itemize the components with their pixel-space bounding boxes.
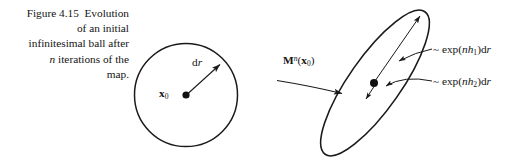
x0-subscript: 0 xyxy=(165,92,169,101)
leader-line-h2 xyxy=(386,79,432,86)
h1-close: )d xyxy=(477,43,486,55)
label-contracting-axis: ~ exp(nh2)dr xyxy=(433,76,491,88)
label-dr: dr xyxy=(192,57,202,68)
map-m: M xyxy=(283,54,294,66)
contracting-axis-arrow xyxy=(366,85,375,99)
h1-r: r xyxy=(487,43,491,55)
dr-r: r xyxy=(198,56,202,68)
map-arrow xyxy=(277,81,342,94)
h2-tilde: ~ xyxy=(433,75,442,87)
figure-4-15: Figure 4.15 Evolution of an initial infi… xyxy=(0,0,520,167)
h1-tilde: ~ xyxy=(433,43,442,55)
label-map-operator: Mn(x0) xyxy=(283,55,314,68)
radius-vector-dr xyxy=(188,65,220,94)
h1-exp: exp( xyxy=(442,43,462,55)
h2-exp: exp( xyxy=(442,75,462,87)
leader-line-h1 xyxy=(399,49,432,61)
label-expanding-axis: ~ exp(nh1)dr xyxy=(433,44,491,56)
h2-r: r xyxy=(487,75,491,87)
h2-close: )d xyxy=(477,75,486,87)
map-paren-close: ) xyxy=(311,54,315,66)
label-x0: x0 xyxy=(159,88,168,100)
